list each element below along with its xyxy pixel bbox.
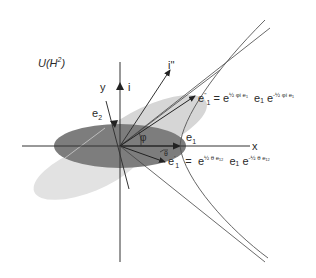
- equation-e1-prime: e'1 = e½ θ e₁₂ e₁ e-½ θ e₁₂: [168, 155, 270, 169]
- diagram-graphics: [0, 0, 316, 278]
- i-double-prime-label: i'': [168, 60, 175, 71]
- hyperbola-upper-branch: [180, 20, 265, 146]
- x-axis-label: x: [252, 141, 258, 152]
- diagram-title: U(H2): [38, 56, 65, 69]
- i-axis-label: i: [128, 82, 130, 93]
- y-axis-label: y: [100, 82, 106, 93]
- diagram-canvas: U(H2) y i i'' x e2 e1 φ θ e''1 = e½ φi e…: [0, 0, 316, 278]
- equation-e1-double-prime: e''1 = e½ φi e₁ e₁ e-½ φi e₁: [198, 92, 294, 106]
- phi-label: φ: [140, 133, 146, 143]
- e2-label: e2: [92, 108, 102, 121]
- e1-label: e1: [186, 132, 196, 145]
